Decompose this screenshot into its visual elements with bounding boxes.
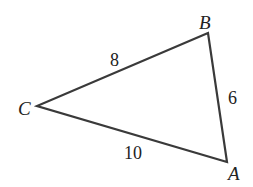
vertex-a-label: A [226, 163, 240, 184]
side-ca-label: 10 [124, 143, 142, 163]
vertex-b-label: B [199, 12, 211, 33]
side-ba-label: 6 [228, 88, 237, 108]
vertex-c-label: C [18, 98, 31, 119]
side-cb-label: 8 [110, 50, 119, 70]
triangle-diagram: B C A 8 6 10 [0, 0, 253, 187]
